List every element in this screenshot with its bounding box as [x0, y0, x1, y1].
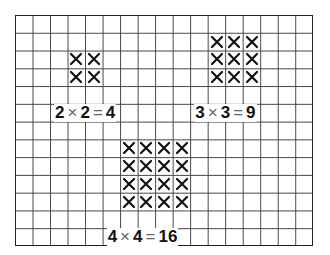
- cross-icon: [85, 51, 103, 69]
- times-sign: ×: [68, 103, 78, 123]
- equation-label: 3 × 3 = 9: [194, 104, 256, 122]
- cross-icon: [243, 51, 261, 69]
- product: 4: [106, 103, 115, 123]
- grid-paper: [15, 15, 313, 246]
- cross-icon: [173, 175, 191, 193]
- factor-b: 3: [221, 103, 230, 123]
- equals-sign: =: [146, 227, 156, 247]
- cross-icon: [225, 51, 243, 69]
- cross-icon: [138, 157, 156, 175]
- times-sign: ×: [120, 227, 130, 247]
- cross-icon: [173, 193, 191, 211]
- cross-icon: [208, 33, 226, 51]
- equation-label: 2 × 2 = 4: [54, 104, 116, 122]
- equals-sign: =: [233, 103, 243, 123]
- cross-icon: [208, 68, 226, 86]
- cross-icon: [208, 51, 226, 69]
- cross-icon: [225, 33, 243, 51]
- cross-icon: [173, 157, 191, 175]
- cross-icon: [138, 175, 156, 193]
- cross-icon: [138, 193, 156, 211]
- cross-icon: [243, 33, 261, 51]
- cross-icon: [155, 157, 173, 175]
- times-sign: ×: [208, 103, 218, 123]
- cross-icon: [68, 68, 86, 86]
- factor-b: 4: [133, 227, 142, 247]
- cross-icon: [243, 68, 261, 86]
- cross-icon: [155, 175, 173, 193]
- cross-icon: [120, 157, 138, 175]
- cross-icon: [85, 68, 103, 86]
- cross-icon: [155, 193, 173, 211]
- cross-icon: [138, 139, 156, 157]
- cross-icon: [225, 68, 243, 86]
- product: 9: [246, 103, 255, 123]
- cross-icon: [120, 139, 138, 157]
- cross-icon: [173, 139, 191, 157]
- cross-icon: [68, 51, 86, 69]
- cross-icon: [120, 175, 138, 193]
- cross-icon: [120, 193, 138, 211]
- cross-icon: [155, 139, 173, 157]
- factor-b: 2: [80, 103, 89, 123]
- factor-a: 2: [55, 103, 64, 123]
- factor-a: 3: [195, 103, 204, 123]
- equals-sign: =: [93, 103, 103, 123]
- product: 16: [158, 227, 177, 247]
- factor-a: 4: [108, 227, 117, 247]
- equation-label: 4 × 4 = 16: [107, 228, 179, 246]
